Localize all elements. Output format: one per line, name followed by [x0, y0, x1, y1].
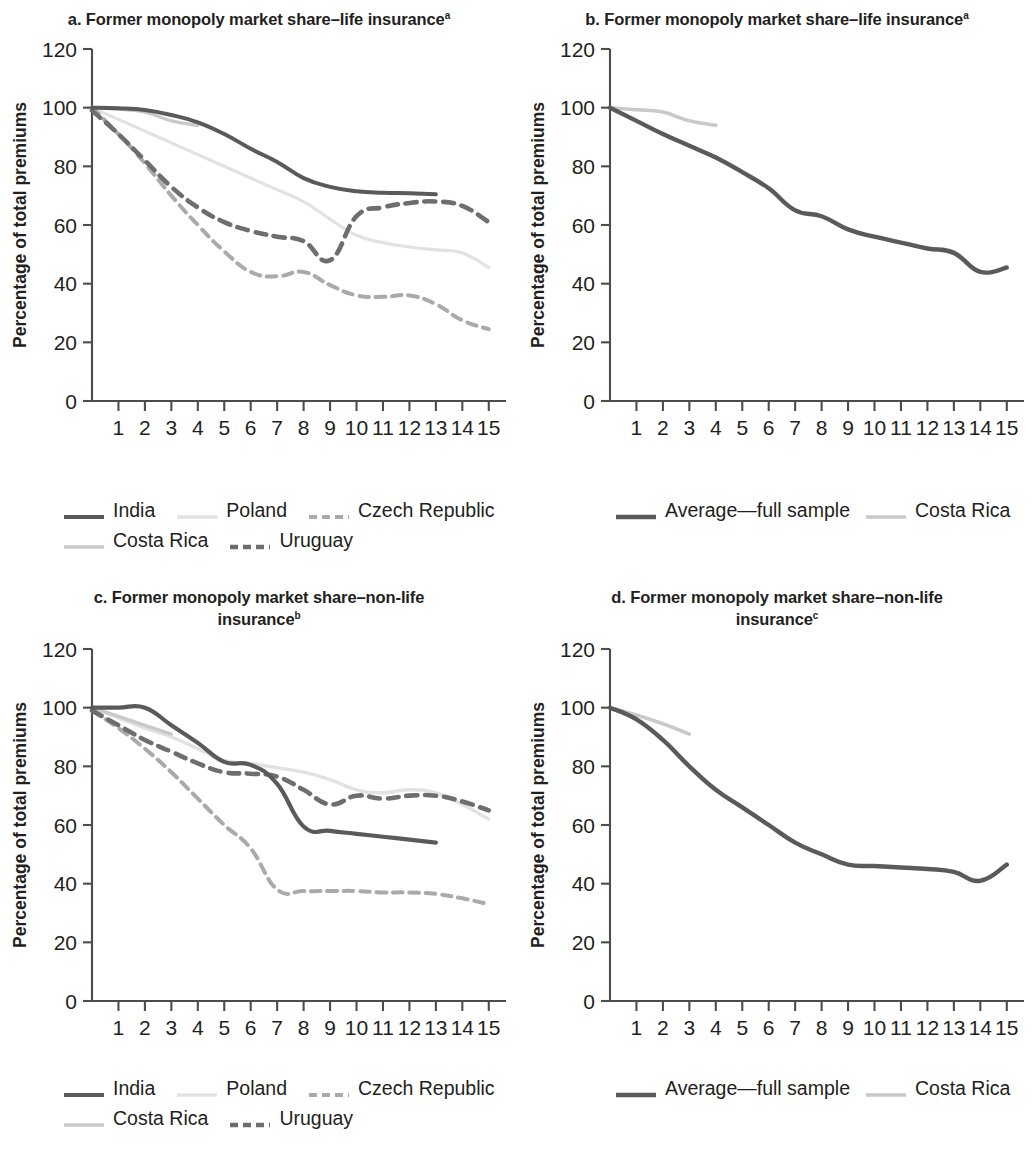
x-tick-label: 8 [816, 416, 828, 439]
y-tick-label: 100 [42, 96, 77, 119]
x-tick-label: 15 [995, 416, 1018, 439]
y-tick-label: 20 [572, 331, 595, 354]
x-tick-label: 1 [113, 1016, 125, 1039]
panel-b-title-footnote: a [963, 10, 968, 21]
legend-item-uruguay[interactable]: Uruguay [230, 531, 353, 551]
panel-d-title-footnote: c [813, 609, 818, 620]
x-tick-label: 2 [657, 1016, 669, 1039]
y-tick-label: 60 [572, 813, 595, 836]
legend-swatch-line [309, 511, 349, 523]
legend-item-india[interactable]: India [64, 1079, 155, 1099]
legend-swatch-line [230, 1119, 270, 1131]
panel-c-legend: IndiaPolandCzech RepublicCosta RicaUrugu… [0, 1074, 518, 1134]
panel-d-legend: Average—full sampleCosta Rica [518, 1074, 1036, 1104]
legend-item-average-full-sample[interactable]: Average—full sample [616, 501, 850, 521]
panel-b-plot: 020406080100120123456789101112131415Year… [518, 31, 1036, 451]
y-tick-label: 40 [572, 272, 595, 295]
y-tick-label: 20 [54, 931, 77, 954]
x-tick-label: 5 [736, 416, 748, 439]
legend-item-costa-rica[interactable]: Costa Rica [866, 1079, 1010, 1099]
legend-row: Costa RicaUruguay [64, 1104, 518, 1134]
legend-item-czech-republic[interactable]: Czech Republic [309, 501, 495, 521]
legend-swatch-line [616, 1089, 656, 1101]
panel-b-title-line1: b. Former monopoly market share–life [585, 10, 881, 28]
y-tick-label: 120 [42, 37, 77, 60]
y-axis-title: Percentage of total premiums [10, 102, 30, 348]
y-axis-title: Percentage of total premiums [10, 702, 30, 948]
legend-item-india[interactable]: India [64, 501, 155, 521]
series-line-average-full-sample [610, 708, 1007, 881]
panel-b-svg: 020406080100120123456789101112131415Year… [518, 31, 1036, 451]
x-tick-label: 15 [995, 1016, 1018, 1039]
x-tick-label: 8 [298, 1016, 310, 1039]
y-tick-label: 40 [54, 272, 77, 295]
legend-swatch-line [64, 511, 104, 523]
legend-item-costa-rica[interactable]: Costa Rica [64, 1109, 208, 1129]
legend-label: Czech Republic [358, 501, 495, 521]
x-tick-label: 12 [398, 1016, 421, 1039]
y-tick-label: 0 [583, 389, 595, 412]
y-tick-label: 60 [54, 213, 77, 236]
panel-d-title-line2: insurance [736, 610, 813, 628]
y-tick-label: 120 [560, 637, 595, 660]
legend-label: Average—full sample [665, 501, 850, 521]
panel-c-plot: 020406080100120123456789101112131415Year… [0, 631, 518, 1051]
x-tick-label: 8 [298, 416, 310, 439]
x-tick-label: 13 [424, 1016, 447, 1039]
legend-item-poland[interactable]: Poland [177, 1079, 287, 1099]
x-tick-label: 12 [398, 416, 421, 439]
legend-item-uruguay[interactable]: Uruguay [230, 1109, 353, 1129]
series-line-india [92, 108, 436, 195]
x-tick-label: 5 [218, 1016, 230, 1039]
y-tick-label: 100 [42, 696, 77, 719]
x-tick-label: 6 [245, 1016, 257, 1039]
x-tick-label: 4 [710, 1016, 722, 1039]
panel-c-title-line2: insurance [217, 610, 294, 628]
panel-c-title-footnote: b [295, 609, 301, 620]
x-tick-label: 5 [736, 1016, 748, 1039]
x-tick-label: 4 [192, 416, 204, 439]
x-tick-label: 14 [451, 416, 475, 439]
x-tick-label: 3 [166, 1016, 178, 1039]
panel-b-legend: Average—full sampleCosta Rica [518, 496, 1036, 526]
legend-swatch-line [177, 1089, 217, 1101]
legend-item-costa-rica[interactable]: Costa Rica [866, 501, 1010, 521]
panel-c-title: c. Former monopoly market share–non-life… [0, 578, 518, 631]
y-tick-label: 40 [54, 872, 77, 895]
x-tick-label: 7 [789, 1016, 801, 1039]
series-line-average-full-sample [610, 108, 1007, 273]
series-line-poland [92, 108, 489, 268]
x-tick-label: 15 [477, 1016, 500, 1039]
x-tick-label: 6 [763, 416, 775, 439]
legend-label: Poland [226, 1079, 287, 1099]
panel-d-title-line1: d. Former monopoly market share–non-life [611, 588, 943, 606]
x-tick-label: 3 [166, 416, 178, 439]
panel-d-title: d. Former monopoly market share–non-life… [518, 578, 1036, 631]
panel-b-title-line2: insurance [886, 10, 963, 28]
x-tick-label: 10 [863, 416, 886, 439]
y-tick-label: 0 [65, 989, 77, 1012]
y-tick-label: 40 [572, 872, 595, 895]
legend-item-czech-republic[interactable]: Czech Republic [309, 1079, 495, 1099]
legend-row: Costa RicaUruguay [64, 526, 518, 556]
y-tick-label: 0 [65, 389, 77, 412]
legend-item-average-full-sample[interactable]: Average—full sample [616, 1079, 850, 1099]
y-tick-label: 60 [54, 813, 77, 836]
legend-item-costa-rica[interactable]: Costa Rica [64, 531, 208, 551]
panel-a: a. Former monopoly market share–life ins… [0, 0, 518, 578]
x-tick-label: 6 [245, 416, 257, 439]
panel-b-title: b. Former monopoly market share–life ins… [518, 0, 1036, 31]
legend-row: IndiaPolandCzech Republic [64, 496, 518, 526]
legend-item-poland[interactable]: Poland [177, 501, 287, 521]
y-tick-label: 120 [560, 37, 595, 60]
x-tick-label: 14 [969, 1016, 993, 1039]
series-line-czech-republic [92, 108, 489, 329]
panel-a-title: a. Former monopoly market share–life ins… [0, 0, 518, 31]
y-tick-label: 100 [560, 96, 595, 119]
x-tick-label: 2 [139, 416, 151, 439]
panel-b: b. Former monopoly market share–life ins… [518, 0, 1036, 578]
panel-d: d. Former monopoly market share–non-life… [518, 578, 1036, 1156]
x-tick-label: 8 [816, 1016, 828, 1039]
x-tick-label: 10 [345, 1016, 368, 1039]
legend-label: India [113, 501, 155, 521]
